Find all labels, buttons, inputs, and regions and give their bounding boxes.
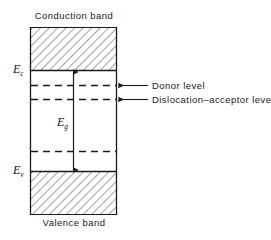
conduction-band-region (30, 27, 117, 70)
dislocation-acceptor-level-label: Dislocation–acceptor level (152, 94, 271, 105)
valence-band-edge-label: Ev (13, 163, 24, 179)
band-diagram-figure: Conduction band Valence band Ec Ev Eg Do… (0, 0, 271, 240)
conduction-band-edge-label: Ec (13, 62, 24, 78)
ec-subscript: c (20, 69, 23, 78)
valence-band-region (30, 172, 117, 215)
conduction-band-caption: Conduction band (0, 10, 148, 21)
band-gap-label: Eg (57, 115, 68, 131)
valence-band-caption: Valence band (0, 217, 148, 228)
band-diagram-graphics (0, 0, 271, 240)
ev-subscript: v (20, 170, 23, 179)
eg-subscript: g (64, 122, 68, 131)
donor-level-label: Donor level (152, 80, 205, 91)
